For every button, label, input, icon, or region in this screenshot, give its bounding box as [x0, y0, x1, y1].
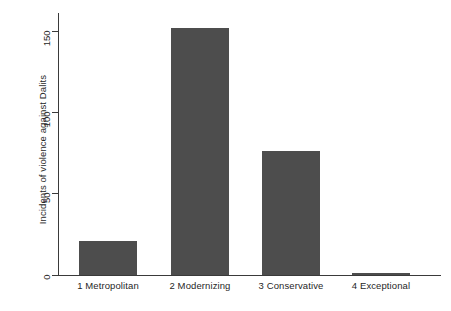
bar-exceptional — [352, 273, 410, 275]
bar-chart-figure: Incidents of violence against Dalits 150… — [0, 0, 451, 311]
plot-area — [0, 0, 451, 311]
x-category-label-4: 4 Exceptional — [323, 280, 439, 291]
bar-modernizing — [171, 28, 229, 275]
bar-metropolitan — [79, 241, 137, 275]
bar-conservative — [262, 151, 320, 275]
